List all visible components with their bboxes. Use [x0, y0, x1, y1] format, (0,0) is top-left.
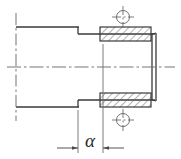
technical-drawing-canvas: α — [0, 0, 181, 159]
upper-center-mark — [112, 6, 134, 28]
upper-bush-body — [100, 27, 151, 41]
shaft-section-drawing: α — [0, 0, 181, 159]
lower-bush — [100, 93, 151, 107]
upper-bush — [100, 27, 151, 41]
lower-bush-body — [100, 93, 151, 107]
lower-center-mark — [112, 109, 134, 131]
angle-dimension-label: α — [85, 130, 96, 151]
